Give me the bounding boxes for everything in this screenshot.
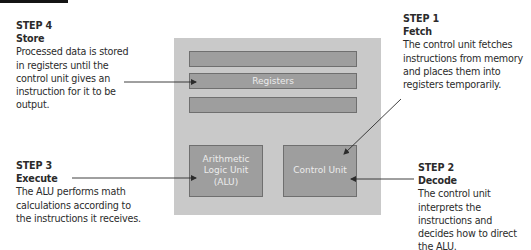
register-bar-2: Registers (189, 73, 357, 89)
alu-label-line-2: Logic Unit (204, 165, 249, 175)
alu-box: Arithmetic Logic Unit (ALU) (189, 145, 263, 197)
step-number: STEP 3 (16, 159, 141, 172)
alu-label-line-3: (ALU) (214, 177, 238, 187)
step-description: The control unit fetches instructions fr… (403, 38, 528, 91)
top-edge-bar (0, 0, 68, 3)
step-name: Store (16, 32, 131, 45)
register-bar-1 (189, 51, 357, 67)
control-unit-label: Control Unit (293, 165, 347, 177)
step-name: Execute (16, 172, 141, 185)
step-name: Decode (418, 174, 530, 187)
step-4-store: STEP 4 Store Processed data is stored in… (16, 19, 131, 111)
step-2-decode: STEP 2 Decode The control unit interpret… (418, 161, 530, 250)
step-description: The control unit interprets the instruct… (418, 187, 530, 250)
step-number: STEP 2 (418, 161, 530, 174)
alu-label-line-1: Arithmetic (203, 154, 250, 164)
step-description: The ALU performs math calculations accor… (16, 185, 141, 225)
step-1-fetch: STEP 1 Fetch The control unit fetches in… (403, 12, 528, 91)
control-unit-box: Control Unit (283, 145, 357, 197)
registers-label: Registers (252, 76, 294, 86)
step-3-execute: STEP 3 Execute The ALU performs math cal… (16, 159, 141, 225)
step-name: Fetch (403, 25, 528, 38)
step-number: STEP 4 (16, 19, 131, 32)
cpu-box: Registers Arithmetic Logic Unit (ALU) Co… (174, 38, 381, 215)
register-bar-3 (189, 97, 357, 113)
step-number: STEP 1 (403, 12, 528, 25)
step-description: Processed data is stored in registers un… (16, 45, 131, 111)
